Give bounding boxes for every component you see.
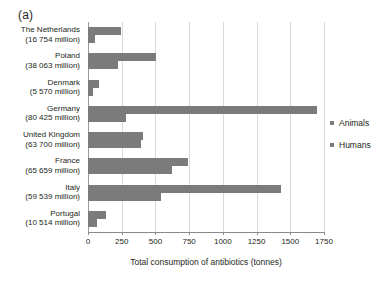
x-tick-label: 1750 — [315, 237, 333, 246]
category-population: (10 514 million) — [25, 218, 80, 228]
category-name: The Netherlands — [21, 25, 80, 35]
gridline — [324, 22, 325, 232]
x-tick-mark — [257, 232, 258, 235]
bar-animals — [88, 185, 281, 193]
bar-animals — [88, 211, 106, 219]
bar-humans — [88, 166, 172, 174]
category-name: Portugal — [25, 209, 80, 219]
x-tick-mark — [189, 232, 190, 235]
legend-swatch-icon — [330, 121, 334, 125]
category-population: (63 700 million) — [23, 140, 80, 150]
category-name: Italy — [25, 183, 80, 193]
x-tick-label: 0 — [86, 237, 90, 246]
x-tick-label: 1500 — [281, 237, 299, 246]
category-label: The Netherlands(16 754 million) — [21, 25, 80, 44]
category-population: (38 063 million) — [25, 61, 80, 71]
x-tick-label: 500 — [149, 237, 162, 246]
category-population: (80 425 million) — [25, 113, 80, 123]
bar-animals — [88, 158, 188, 166]
x-axis-line — [88, 232, 324, 233]
x-tick-label: 1250 — [248, 237, 266, 246]
category-population: (5 570 million) — [30, 87, 80, 97]
x-tick-mark — [122, 232, 123, 235]
bar-group — [88, 80, 324, 96]
bar-group — [88, 158, 324, 174]
x-tick-mark — [223, 232, 224, 235]
bar-humans — [88, 219, 97, 227]
bar-animals — [88, 106, 317, 114]
category-population: (59 539 million) — [25, 192, 80, 202]
x-tick-mark — [324, 232, 325, 235]
x-tick-mark — [290, 232, 291, 235]
bar-humans — [88, 35, 95, 43]
category-label: Germany(80 425 million) — [25, 104, 80, 123]
bar-group — [88, 185, 324, 201]
bar-group — [88, 132, 324, 148]
x-tick-label: 1000 — [214, 237, 232, 246]
y-axis-category-labels: The Netherlands(16 754 million)Poland(38… — [0, 22, 84, 232]
bar-animals — [88, 80, 99, 88]
category-label: Denmark(5 570 million) — [30, 78, 80, 97]
category-name: France — [25, 156, 80, 166]
category-name: Germany — [25, 104, 80, 114]
category-label: Portugal(10 514 million) — [25, 209, 80, 228]
category-label: Poland(38 063 million) — [25, 51, 80, 70]
bar-animals — [88, 53, 156, 61]
bar-humans — [88, 114, 126, 122]
bar-animals — [88, 27, 121, 35]
bar-group — [88, 53, 324, 69]
bar-humans — [88, 61, 118, 69]
panel-label: (a) — [18, 8, 33, 22]
legend-swatch-icon — [330, 143, 334, 147]
legend-label: Humans — [339, 140, 371, 150]
legend-label: Animals — [339, 118, 369, 128]
category-name: Denmark — [30, 78, 80, 88]
bar-group — [88, 211, 324, 227]
legend-item-humans: Humans — [330, 140, 371, 150]
category-label: United Kingdom(63 700 million) — [23, 130, 80, 149]
category-name: United Kingdom — [23, 130, 80, 140]
bar-group — [88, 106, 324, 122]
x-axis-title: Total consumption of antibiotics (tonnes… — [88, 257, 324, 267]
x-tick-mark — [88, 232, 89, 235]
bar-humans — [88, 193, 161, 201]
category-label: Italy(59 539 million) — [25, 183, 80, 202]
category-population: (65 659 million) — [25, 166, 80, 176]
x-tick-label: 250 — [115, 237, 128, 246]
bar-animals — [88, 132, 143, 140]
bar-humans — [88, 88, 93, 96]
plot-area — [88, 22, 324, 232]
figure-panel-a: (a) The Netherlands(16 754 million)Polan… — [0, 0, 379, 294]
category-population: (16 754 million) — [21, 35, 80, 45]
x-tick-label: 750 — [182, 237, 195, 246]
chart-legend: AnimalsHumans — [330, 118, 371, 162]
category-label: France(65 659 million) — [25, 156, 80, 175]
bar-humans — [88, 140, 141, 148]
category-name: Poland — [25, 51, 80, 61]
x-tick-mark — [155, 232, 156, 235]
bar-group — [88, 27, 324, 43]
legend-item-animals: Animals — [330, 118, 371, 128]
